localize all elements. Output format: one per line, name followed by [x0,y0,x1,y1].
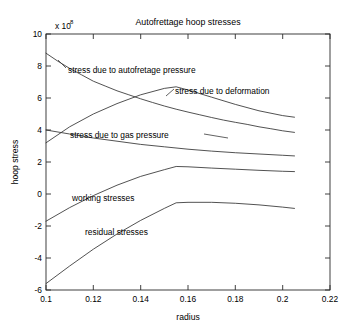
x-tick-label: 0.12 [85,294,102,304]
y-tick-label: -4 [35,253,43,263]
x-tick-label: 0.22 [322,294,339,304]
annotation-deformation: stress due to deformation [175,86,270,96]
leader-line-gas-pressure [204,134,228,138]
annotation-labels: stress due to autofretage pressure stres… [68,65,270,237]
leader-line-autofretage [58,60,66,68]
x-axis-tick-labels: 0.1 0.12 0.14 0.16 0.18 0.2 0.22 [40,294,338,304]
y-tick-label: 8 [37,61,42,71]
y-axis-title: hoop stress [10,140,20,184]
chart-title: Autofrettage hoop stresses [135,17,241,27]
y-tick-label: 0 [37,189,42,199]
x-tick-label: 0.2 [277,294,289,304]
series-line-residual-stresses [46,202,295,283]
y-tick-label: 4 [37,125,42,135]
annotation-autofretage-pressure: stress due to autofretage pressure [68,65,196,75]
y-tick-label: -2 [35,221,43,231]
y-axis-multiplier: x 10 [55,21,71,31]
x-axis-title: radius [176,312,199,322]
annotation-residual-stresses: residual stresses [85,227,148,237]
annotation-working-stresses: working stresses [71,193,134,203]
annotation-gas-pressure: stress due to gas pressure [70,130,169,140]
y-axis-exponent: 8 [70,19,74,25]
leader-line-deformation [166,89,174,96]
x-tick-label: 0.16 [180,294,197,304]
x-tick-label: 0.14 [133,294,150,304]
y-tick-label: 6 [37,93,42,103]
y-tick-label: 10 [33,29,43,39]
x-tick-label: 0.18 [227,294,244,304]
y-axis-tick-labels: -6 -4 -2 0 2 4 6 8 10 [33,29,43,295]
chart-figure: Autofrettage hoop stresses x 10 8 hoop s… [0,0,353,335]
x-tick-label: 0.1 [40,294,52,304]
y-tick-label: 2 [37,157,42,167]
autofrettage-hoop-stresses-chart: Autofrettage hoop stresses x 10 8 hoop s… [0,0,353,335]
